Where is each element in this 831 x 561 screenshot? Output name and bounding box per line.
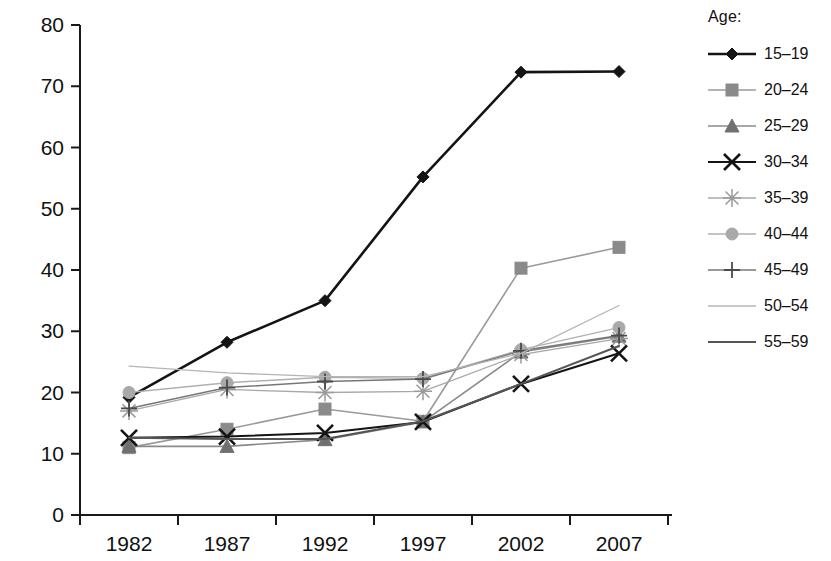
- legend-item-35-39: 35–39: [706, 180, 826, 216]
- series-line: [129, 353, 619, 438]
- legend-marker-icon: [706, 187, 758, 209]
- marker-square: [726, 84, 738, 96]
- marker-plus: [121, 400, 137, 416]
- legend-item-25-29: 25–29: [706, 108, 826, 144]
- legend-rows: 15–1920–2425–2930–3435–3940–4445–4950–54…: [706, 36, 826, 360]
- legend-marker-icon: [706, 151, 758, 173]
- legend-item-label: 20–24: [764, 81, 809, 99]
- legend-title: Age:: [708, 8, 826, 26]
- legend-item-45-49: 45–49: [706, 252, 826, 288]
- marker-square: [319, 403, 331, 415]
- chart-container: 01020304050607080 1982198719921997200220…: [0, 0, 831, 561]
- x-tick-label: 1997: [400, 532, 447, 555]
- legend-item-label: 25–29: [764, 117, 809, 135]
- series-6: [123, 322, 625, 399]
- x-tick-label-layer: 198219871992199720022007: [106, 532, 643, 555]
- legend-key-swatch: [706, 259, 758, 281]
- series-1: [123, 66, 625, 404]
- y-tick-label: 0: [52, 503, 64, 526]
- x-tick-label: 2007: [596, 532, 643, 555]
- legend-key-swatch: [706, 223, 758, 245]
- y-tick-label: 20: [41, 381, 64, 404]
- x-tick-label: 1992: [302, 532, 349, 555]
- legend-marker-icon: [706, 223, 758, 245]
- series-3: [122, 329, 626, 452]
- x-tick-label: 1982: [106, 532, 153, 555]
- series-line: [129, 306, 619, 377]
- y-tick-label: 40: [41, 258, 64, 281]
- legend-key-swatch: [706, 295, 758, 317]
- marker-diamond: [613, 66, 625, 78]
- marker-square: [515, 262, 527, 274]
- legend-marker-icon: [706, 115, 758, 137]
- axis-layer: [71, 25, 672, 525]
- y-tick-label: 50: [41, 197, 64, 220]
- series-line: [129, 328, 619, 393]
- legend-item-label: 45–49: [764, 261, 809, 279]
- legend-item-55-59: 55–59: [706, 324, 826, 360]
- series-line: [129, 336, 619, 409]
- y-tick-label: 10: [41, 442, 64, 465]
- legend-item-label: 40–44: [764, 225, 809, 243]
- legend-item-50-54: 50–54: [706, 288, 826, 324]
- marker-diamond: [221, 336, 233, 348]
- marker-circle: [123, 387, 135, 399]
- marker-diamond: [726, 48, 738, 60]
- legend-marker-icon: [706, 259, 758, 281]
- legend-marker-icon: [706, 43, 758, 65]
- legend-key-swatch: [706, 187, 758, 209]
- legend-marker-icon: [706, 295, 758, 317]
- y-tick-label-layer: 01020304050607080: [41, 13, 64, 526]
- marker-plus: [724, 262, 740, 278]
- legend-item-label: 15–19: [764, 45, 809, 63]
- legend-key-swatch: [706, 43, 758, 65]
- series-layer: [120, 66, 628, 454]
- y-tick-label: 80: [41, 13, 64, 36]
- legend-key-swatch: [706, 151, 758, 173]
- legend-key-swatch: [706, 79, 758, 101]
- legend-marker-icon: [706, 79, 758, 101]
- legend-item-label: 50–54: [764, 297, 809, 315]
- legend-item-label: 35–39: [764, 189, 809, 207]
- y-tick-label: 30: [41, 319, 64, 342]
- legend-item-20-24: 20–24: [706, 72, 826, 108]
- chart-legend: Age: 15–1920–2425–2930–3435–3940–4445–49…: [706, 8, 826, 360]
- legend-key-swatch: [706, 331, 758, 353]
- marker-square: [613, 241, 625, 253]
- legend-item-40-44: 40–44: [706, 216, 826, 252]
- legend-item-30-34: 30–34: [706, 144, 826, 180]
- legend-item-label: 55–59: [764, 333, 809, 351]
- legend-item-label: 30–34: [764, 153, 809, 171]
- legend-marker-icon: [706, 331, 758, 353]
- y-tick-label: 70: [41, 74, 64, 97]
- x-tick-label: 2002: [498, 532, 545, 555]
- legend-key-swatch: [706, 115, 758, 137]
- marker-asterisk: [723, 189, 741, 207]
- y-tick-label: 60: [41, 136, 64, 159]
- series-8: [129, 306, 619, 377]
- line-chart-plot: 01020304050607080 1982198719921997200220…: [0, 0, 706, 561]
- x-tick-label: 1987: [204, 532, 251, 555]
- legend-item-15-19: 15–19: [706, 36, 826, 72]
- marker-circle: [726, 228, 738, 240]
